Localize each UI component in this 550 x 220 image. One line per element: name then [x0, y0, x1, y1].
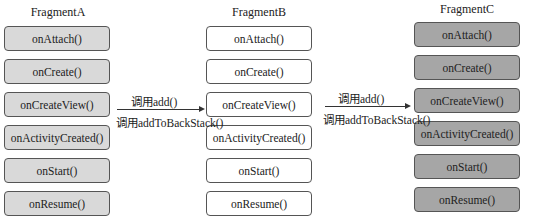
fragment-b-title: FragmentB	[204, 5, 314, 20]
lifecycle-step: onCreate()	[206, 59, 312, 84]
arrow-top-label: 调用add()	[131, 93, 177, 109]
lifecycle-step: onResume()	[206, 191, 312, 216]
lifecycle-step: onAttach()	[4, 26, 110, 51]
lifecycle-step: onResume()	[414, 187, 520, 212]
lifecycle-step: onStart()	[414, 154, 520, 179]
arrow-line	[117, 109, 199, 110]
lifecycle-step: onStart()	[206, 158, 312, 183]
lifecycle-step: onAttach()	[206, 26, 312, 51]
arrow-head-icon	[405, 103, 411, 109]
lifecycle-step: onCreate()	[414, 55, 520, 80]
arrow-line	[325, 106, 405, 107]
fragment-a-lifecycle: onAttach() onCreate() onCreateView() onA…	[4, 26, 110, 220]
lifecycle-step: onStart()	[4, 158, 110, 183]
arrow-top-label: 调用add()	[338, 90, 384, 106]
arrow-bottom-label: 调用addToBackStack()	[323, 111, 430, 127]
lifecycle-step: onActivityCreated()	[4, 125, 110, 150]
lifecycle-step: onCreateView()	[414, 88, 520, 113]
arrow-head-icon	[199, 106, 205, 112]
lifecycle-step: onCreate()	[4, 59, 110, 84]
arrow-bottom-label: 调用addToBackStack()	[116, 114, 223, 130]
lifecycle-step: onAttach()	[414, 22, 520, 47]
fragment-a-title: FragmentA	[3, 5, 113, 20]
lifecycle-step: onCreateView()	[4, 92, 110, 117]
lifecycle-step: onResume()	[4, 191, 110, 216]
fragment-c-title: FragmentC	[412, 2, 522, 17]
